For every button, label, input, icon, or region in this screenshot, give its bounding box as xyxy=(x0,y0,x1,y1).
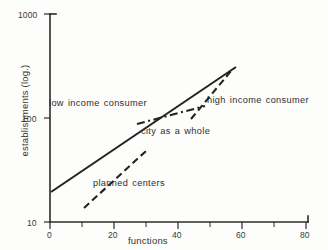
series-label-low-income-consumer: low income consumer xyxy=(49,98,147,108)
plot-canvas xyxy=(0,0,328,250)
series-label-high-income-consumer: high income consumer xyxy=(207,95,309,105)
x-tick-marks xyxy=(50,222,306,229)
x-tick-label-20: 20 xyxy=(108,230,118,240)
series-label-planned-centers: planned centers xyxy=(93,178,165,188)
x-tick-label-80: 80 xyxy=(300,230,310,240)
x-tick-label-40: 40 xyxy=(172,230,182,240)
y-tick-marks xyxy=(44,14,50,222)
y-tick-label-1000: 1000 xyxy=(18,10,37,20)
series-label-city-as-a-whole: city as a whole xyxy=(141,126,210,136)
y-tick-label-10: 10 xyxy=(27,218,37,228)
chart-figure: 1000 100 10 0 20 40 60 80 establishments… xyxy=(0,0,328,250)
x-tick-label-60: 60 xyxy=(236,230,246,240)
x-tick-label-0: 0 xyxy=(47,230,52,240)
x-axis-title: functions xyxy=(128,235,168,246)
y-axis-title: establishments (log.) xyxy=(19,41,30,181)
